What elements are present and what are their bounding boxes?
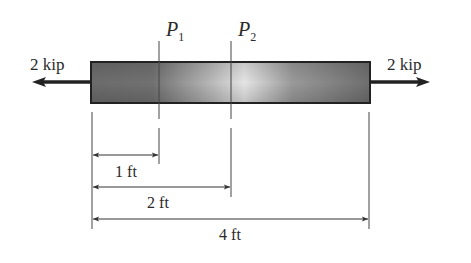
dimension-label-2ft: 2 ft <box>147 194 169 211</box>
section-label-p1: P1 <box>165 18 184 44</box>
dimension-label-1ft: 1 ft <box>115 163 137 180</box>
bar-diagram: 2 kip 2 kip P1 P2 1 ft 2 ft 4 ft <box>0 0 471 263</box>
right-load-arrow-icon <box>370 77 430 87</box>
dimension-label-4ft: 4 ft <box>219 226 241 243</box>
right-load-label: 2 kip <box>387 55 421 74</box>
left-load-label: 2 kip <box>30 55 64 74</box>
section-label-p2: P2 <box>237 18 256 44</box>
left-load-arrow-icon <box>32 77 91 87</box>
